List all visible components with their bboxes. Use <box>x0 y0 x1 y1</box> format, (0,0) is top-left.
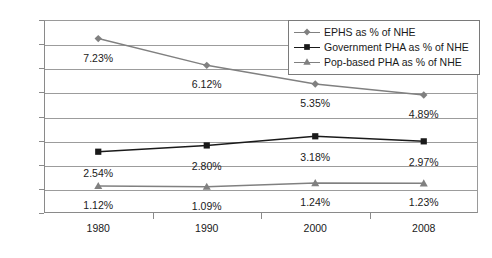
data-point-label: 2.54% <box>83 167 113 179</box>
x-axis-tick-label: 1980 <box>53 222 143 234</box>
data-point-label: 1.09% <box>192 200 222 212</box>
y-axis-tick-mark <box>39 165 44 166</box>
gridline <box>45 190 477 191</box>
legend-key-triangle-icon <box>294 56 320 68</box>
y-axis-tick-mark <box>39 213 44 214</box>
data-point-label: 5.35% <box>300 97 330 109</box>
legend-key-marker <box>301 41 313 53</box>
legend-key-marker <box>301 26 313 38</box>
data-point-label: 1.24% <box>300 196 330 208</box>
legend-label: EPHS as % of NHE <box>324 26 416 38</box>
data-point-label: 1.23% <box>409 196 439 208</box>
legend-key-diamond-icon <box>294 26 320 38</box>
x-axis-tick-label: 2008 <box>379 222 469 234</box>
x-axis-separator <box>370 213 371 219</box>
gridline <box>45 142 477 143</box>
gridline <box>45 93 477 94</box>
data-point-label: 2.97% <box>409 156 439 168</box>
x-axis-separator <box>261 213 262 219</box>
y-axis-tick-mark <box>39 141 44 142</box>
legend-item-3: Pop-based PHA as % of NHE <box>294 55 474 69</box>
chart-container: 0.0%1.0%2.0%3.0%4.0%5.0%6.0%7.0%8.0% 198… <box>0 0 492 258</box>
x-axis-separator <box>153 213 154 219</box>
data-point-label: 1.12% <box>83 199 113 211</box>
y-axis-tick-mark <box>39 92 44 93</box>
y-axis-tick-mark <box>39 68 44 69</box>
chart-legend: EPHS as % of NHEGovernment PHA as % of N… <box>288 20 480 75</box>
y-axis-tick-mark <box>39 44 44 45</box>
legend-label: Pop-based PHA as % of NHE <box>324 56 462 68</box>
legend-item-2: Government PHA as % of NHE <box>294 40 474 54</box>
legend-key-square-icon <box>294 41 320 53</box>
data-point-label: 7.23% <box>83 52 113 64</box>
legend-key-marker <box>301 56 313 68</box>
legend-item-1: EPHS as % of NHE <box>294 25 474 39</box>
data-point-label: 6.12% <box>192 78 222 90</box>
legend-label: Government PHA as % of NHE <box>324 41 469 53</box>
data-point-label: 3.18% <box>300 151 330 163</box>
y-axis-tick-mark <box>39 189 44 190</box>
data-point-label: 4.89% <box>409 108 439 120</box>
y-axis-tick-mark <box>39 117 44 118</box>
data-point-label: 2.80% <box>192 160 222 172</box>
x-axis-tick-label: 1990 <box>162 222 252 234</box>
y-axis-tick-mark <box>39 20 44 21</box>
x-axis-tick-label: 2000 <box>270 222 360 234</box>
